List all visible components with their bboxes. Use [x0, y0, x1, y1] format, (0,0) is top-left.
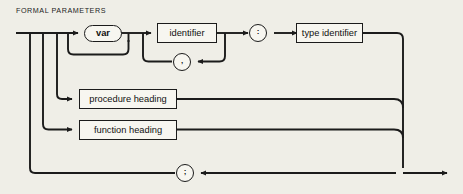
terminal-colon[interactable]: :: [249, 24, 267, 42]
nonterminal-type-identifier[interactable]: type identifier: [296, 23, 363, 43]
terminal-var[interactable]: var: [84, 25, 122, 42]
terminal-comma[interactable]: ,: [173, 53, 191, 71]
nonterminal-procedure-heading[interactable]: procedure heading: [79, 89, 177, 109]
railroad-track-lines: [0, 0, 463, 194]
nonterminal-procedure-heading-label: procedure heading: [89, 94, 167, 104]
syntax-diagram: FORMAL PARAMETERS: [0, 0, 463, 194]
terminal-var-label: var: [96, 28, 110, 38]
nonterminal-function-heading-label: function heading: [94, 125, 162, 135]
nonterminal-identifier-label: identifier: [169, 28, 204, 38]
nonterminal-type-identifier-label: type identifier: [302, 28, 357, 38]
nonterminal-function-heading[interactable]: function heading: [79, 120, 177, 140]
nonterminal-identifier[interactable]: identifier: [157, 23, 217, 43]
terminal-semicolon[interactable]: ;: [176, 164, 194, 182]
